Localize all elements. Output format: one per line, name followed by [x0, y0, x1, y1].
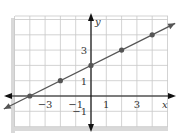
y-tick-label: −1: [72, 106, 87, 117]
y-axis-label: y: [94, 16, 101, 27]
x-tick-label: 1: [103, 99, 109, 110]
y-tick-label: 1: [81, 76, 87, 87]
data-point: [150, 32, 155, 37]
data-point: [27, 93, 32, 98]
line-graph: xy−3−113−113: [0, 0, 179, 135]
y-tick-label: 3: [81, 45, 87, 56]
data-point: [119, 48, 124, 53]
data-point: [58, 78, 63, 83]
panel-shadow: [11, 16, 168, 133]
data-point: [88, 63, 93, 68]
x-axis-arrow-right-icon: [168, 93, 176, 99]
x-axis-arrow-left-icon: [4, 93, 12, 99]
x-tick-label: −3: [38, 99, 53, 110]
x-tick-label: 3: [134, 99, 140, 110]
x-axis-label: x: [162, 99, 168, 110]
